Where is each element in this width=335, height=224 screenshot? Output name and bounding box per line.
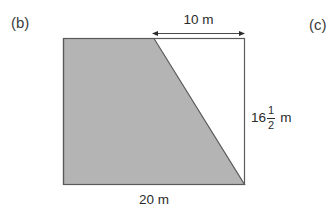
unit-label: m [280,111,291,125]
dimension-label-right: 16 1 2 m [251,105,291,131]
mixed-number-whole: 16 [251,111,266,125]
dimension-label-bottom: 20 m [63,193,245,207]
dimension-label-top: 10 m [152,13,245,27]
fraction-numerator: 1 [267,105,275,118]
fraction-denominator: 2 [267,119,275,132]
shaded-trapezoid [64,39,245,185]
top-dimension-line [152,31,245,36]
mixed-number-fraction: 1 2 [267,105,275,131]
figure-page: (b) (c) 10 m 20 m 16 1 2 m [0,0,335,224]
